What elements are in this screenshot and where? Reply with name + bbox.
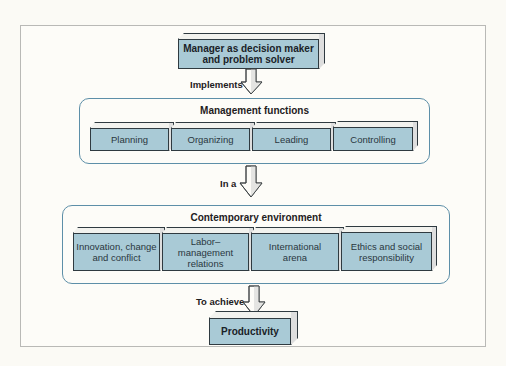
box-side-face [319, 33, 325, 69]
productivity-box-front: Productivity [209, 318, 291, 345]
productivity-label: Productivity [221, 326, 279, 337]
manager-line-2: and problem solver [202, 54, 294, 65]
management-functions-title: Management functions [80, 105, 429, 116]
function-box-leading: Leading [252, 122, 336, 151]
box-side-face [432, 226, 437, 271]
environment-line-1: Ethics and social [351, 241, 422, 252]
environment-line-1: Innovation, change [76, 241, 156, 252]
in-a-label: In a [220, 178, 236, 189]
function-box-planning: Planning [90, 122, 174, 151]
box-top-face [209, 311, 298, 318]
function-label: Leading [275, 134, 309, 145]
manager-line-1: Manager as decision maker [183, 43, 314, 54]
environment-box-front: Ethics and social responsibility [341, 232, 432, 271]
manager-box: Manager as decision maker and problem so… [178, 33, 325, 69]
function-label: Controlling [350, 134, 395, 145]
function-box-front: Organizing [171, 128, 250, 151]
function-label: Organizing [188, 134, 234, 145]
function-box-front: Planning [90, 128, 169, 151]
function-box-front: Controlling [333, 127, 413, 151]
down-arrow-icon [239, 165, 267, 199]
environment-line-1: International [269, 241, 321, 252]
environment-box-international: International arena [251, 227, 344, 271]
environment-line-2: arena [283, 252, 307, 263]
environment-box-labor: Labor–management relations [162, 227, 254, 271]
down-arrow-icon [240, 68, 268, 96]
productivity-box: Productivity [209, 311, 298, 345]
box-side-face [413, 121, 418, 151]
contemporary-environment-title: Contemporary environment [63, 212, 449, 223]
environment-line-2: responsibility [359, 252, 414, 263]
function-label: Planning [111, 134, 148, 145]
function-box-organizing: Organizing [171, 122, 255, 151]
function-box-controlling: Controlling [333, 121, 418, 151]
environment-line-2: and conflict [92, 252, 140, 263]
environment-box-innovation: Innovation, change and conflict [73, 227, 165, 271]
environment-box-ethics: Ethics and social responsibility [341, 226, 437, 271]
environment-box-front: International arena [251, 233, 339, 271]
environment-line-1: Labor–management [163, 236, 248, 258]
function-box-front: Leading [252, 128, 331, 151]
box-side-face [291, 311, 298, 345]
environment-box-front: Innovation, change and conflict [73, 233, 160, 271]
manager-box-front: Manager as decision maker and problem so… [178, 39, 319, 69]
environment-box-front: Labor–management relations [162, 233, 249, 271]
to-achieve-label: To achieve [196, 296, 244, 307]
environment-line-2: relations [188, 258, 224, 269]
implements-label: Implements [190, 79, 243, 90]
